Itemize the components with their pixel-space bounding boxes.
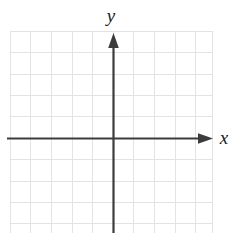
coordinate-plane	[0, 0, 234, 233]
y-axis-label: y	[103, 6, 119, 25]
x-axis-label: x	[216, 128, 232, 147]
